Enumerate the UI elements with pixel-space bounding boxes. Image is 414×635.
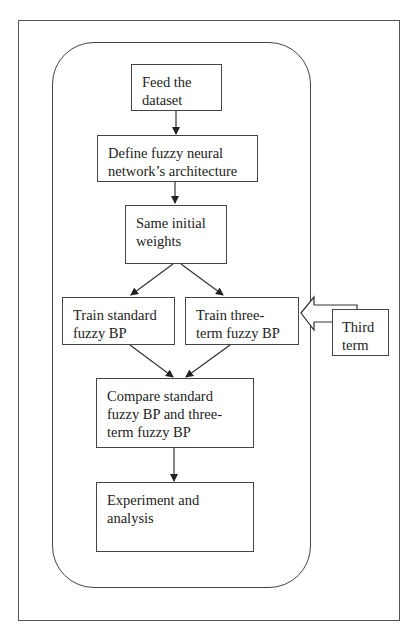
arrow-train-standard-to-compare bbox=[130, 345, 173, 377]
node-label: Compare standard bbox=[107, 387, 253, 405]
node-label: Feed the bbox=[142, 73, 221, 91]
node-label: weights bbox=[136, 232, 226, 250]
node-label: term fuzzy BP bbox=[107, 423, 253, 441]
arrow-train-three-term-to-compare bbox=[186, 345, 230, 377]
node-define-architecture: Define fuzzy neural network’s architectu… bbox=[97, 135, 258, 182]
node-train-standard: Train standard fuzzy BP bbox=[62, 297, 175, 345]
node-label: Third bbox=[342, 318, 388, 336]
node-label: Define fuzzy neural bbox=[108, 144, 257, 162]
node-label: fuzzy BP and three- bbox=[107, 405, 253, 423]
node-label: analysis bbox=[107, 509, 253, 527]
node-label: Experiment and bbox=[107, 491, 253, 509]
node-label: dataset bbox=[142, 91, 221, 109]
node-feed-dataset: Feed the dataset bbox=[131, 64, 222, 111]
node-label: Train standard bbox=[73, 306, 174, 324]
arrow-weights-to-train-three-term bbox=[181, 264, 223, 295]
node-label: network’s architecture bbox=[108, 162, 257, 180]
node-label: term bbox=[342, 336, 388, 354]
node-label: Train three- bbox=[196, 306, 298, 324]
node-same-initial-weights: Same initial weights bbox=[125, 205, 227, 264]
node-label: fuzzy BP bbox=[73, 324, 174, 342]
node-label: Same initial bbox=[136, 214, 226, 232]
node-compare: Compare standard fuzzy BP and three- ter… bbox=[96, 378, 254, 448]
arrow-weights-to-train-standard bbox=[131, 264, 173, 295]
node-third-term: Third term bbox=[332, 309, 389, 356]
node-label: term fuzzy BP bbox=[196, 324, 298, 342]
node-experiment-analysis: Experiment and analysis bbox=[96, 482, 254, 552]
node-train-three-term: Train three- term fuzzy BP bbox=[185, 297, 299, 345]
